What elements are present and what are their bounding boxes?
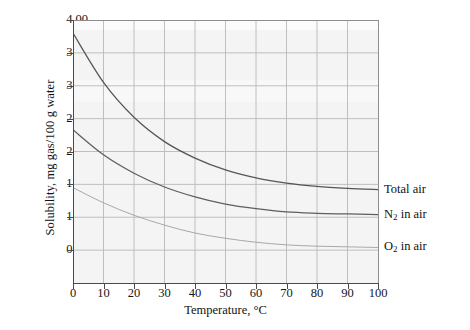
axis-spine-right [378, 20, 379, 283]
series-label-n2-in-air: N2 in air [384, 207, 427, 222]
x-tick-mark [378, 283, 379, 289]
y-axis-title: Solubility, mg gas/100 g water [43, 28, 58, 288]
subscript: 2 [393, 212, 398, 222]
plot-canvas [73, 20, 378, 283]
series-label-total-air: Total air [384, 182, 426, 197]
subscript: 2 [393, 244, 398, 254]
series-label-o2-in-air: O2 in air [384, 239, 427, 254]
plot-area [73, 20, 378, 283]
solubility-chart-figure: Solubility, mg gas/100 g water Temperatu… [0, 0, 470, 330]
axis-spine-top [73, 20, 378, 21]
gridlines [73, 20, 378, 283]
axis-spine-bottom [73, 283, 378, 284]
x-axis-title: Temperature, °C [73, 303, 378, 318]
axis-spine-left [73, 20, 74, 283]
